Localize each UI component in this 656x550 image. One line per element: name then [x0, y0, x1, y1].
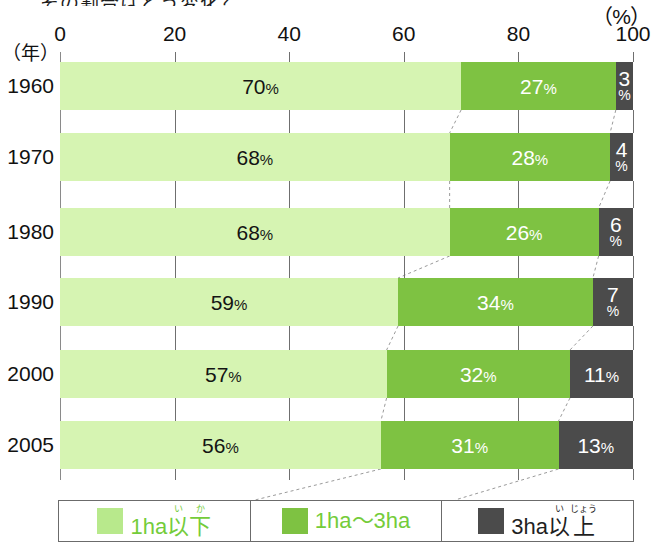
- segment-value-label: 68%: [236, 147, 273, 168]
- bar-segment-1990-1: 59%: [60, 278, 398, 326]
- bar-row: 56%31%13%: [60, 421, 633, 469]
- segment-value-label: 7%: [607, 285, 619, 318]
- grid-tick: [175, 110, 176, 133]
- grid-tick: [289, 110, 290, 133]
- year-label-1980: 1980: [0, 220, 54, 244]
- grid-tick: [175, 181, 176, 208]
- bar-segment-2005-3: 13%: [559, 421, 633, 469]
- legend-item-1ha-to-3ha[interactable]: 1ha〜3ha: [251, 501, 443, 541]
- segment-value-label: 3%: [618, 69, 630, 102]
- legend-swatch-1ha-or-less: [97, 508, 123, 534]
- bar-segment-1990-3: 7%: [593, 278, 633, 326]
- grid-tick: [289, 398, 290, 421]
- bar-segment-1960-1: 70%: [60, 62, 461, 110]
- grid-tick: [518, 110, 519, 133]
- grid-tick: [633, 398, 634, 421]
- bar-segment-1980-2: 26%: [450, 208, 599, 256]
- grid-tick: [518, 52, 519, 62]
- grid-tick: [404, 110, 405, 133]
- bar-segment-1980-3: 6%: [599, 208, 633, 256]
- grid-tick: [518, 469, 519, 480]
- segment-value-label: 26%: [506, 222, 543, 243]
- legend-label-1ha-to-3ha: 1ha〜3ha: [315, 510, 410, 532]
- bar-segment-1990-2: 34%: [398, 278, 593, 326]
- segment-value-label: 56%: [202, 435, 239, 456]
- segment-value-label: 4%: [615, 140, 627, 173]
- bar-segment-1980-1: 68%: [60, 208, 450, 256]
- grid-tick: [404, 181, 405, 208]
- grid-tick: [289, 256, 290, 278]
- segment-value-label: 32%: [460, 364, 497, 385]
- grid-tick: [175, 326, 176, 350]
- legend-item-1ha-or-less[interactable]: 1ha以い下か: [59, 501, 251, 541]
- grid-tick: [518, 256, 519, 278]
- bar-row: 68%26%6%: [60, 208, 633, 256]
- grid-tick: [518, 398, 519, 421]
- chart-legend: 1ha以い下か1ha〜3ha3ha以い上じょう: [58, 500, 634, 542]
- segment-value-label: 11%: [584, 364, 619, 385]
- grid-tick: [404, 256, 405, 278]
- bar-segment-1960-2: 27%: [461, 62, 616, 110]
- segment-value-label: 13%: [577, 435, 614, 456]
- bar-segment-2005-1: 56%: [60, 421, 381, 469]
- bar-segment-1970-3: 4%: [610, 133, 633, 181]
- segment-value-label: 6%: [610, 215, 622, 248]
- bar-row: 57%32%11%: [60, 350, 633, 398]
- grid-tick: [633, 52, 634, 62]
- legend-swatch-1ha-to-3ha: [282, 508, 308, 534]
- y-axis-unit-label: （年）: [2, 38, 59, 65]
- x-tick-80: 80: [507, 22, 530, 46]
- segment-value-label: 31%: [451, 435, 488, 456]
- grid-tick: [404, 398, 405, 421]
- segment-value-label: 68%: [236, 222, 273, 243]
- grid-tick: [633, 256, 634, 278]
- legend-label-1ha-or-less: 1ha以い下か: [130, 504, 211, 538]
- bar-segment-2000-1: 57%: [60, 350, 387, 398]
- bar-segment-2000-3: 11%: [570, 350, 633, 398]
- x-tick-20: 20: [163, 22, 186, 46]
- grid-tick: [518, 326, 519, 350]
- legend-label-3ha-or-more: 3ha以い上じょう: [511, 504, 597, 538]
- segment-value-label: 28%: [511, 147, 548, 168]
- x-tick-100: 100: [615, 22, 650, 46]
- year-label-1970: 1970: [0, 145, 54, 169]
- year-label-2005: 2005: [0, 433, 54, 457]
- legend-item-3ha-or-more[interactable]: 3ha以い上じょう: [442, 501, 633, 541]
- grid-tick: [633, 469, 634, 480]
- grid-tick: [289, 52, 290, 62]
- bar-row: 70%27%3%: [60, 62, 633, 110]
- grid-tick: [289, 181, 290, 208]
- segment-value-label: 57%: [205, 364, 242, 385]
- grid-tick: [175, 398, 176, 421]
- bar-segment-1970-1: 68%: [60, 133, 450, 181]
- segment-value-label: 34%: [477, 292, 514, 313]
- grid-tick: [404, 469, 405, 480]
- bar-segment-2000-2: 32%: [387, 350, 570, 398]
- bar-segment-1970-2: 28%: [450, 133, 610, 181]
- grid-tick: [289, 469, 290, 480]
- grid-tick: [289, 326, 290, 350]
- grid-tick: [518, 181, 519, 208]
- year-label-1990: 1990: [0, 290, 54, 314]
- grid-tick: [404, 52, 405, 62]
- year-label-2000: 2000: [0, 362, 54, 386]
- year-label-1960: 1960: [0, 74, 54, 98]
- bar-segment-2005-2: 31%: [381, 421, 559, 469]
- grid-tick: [404, 326, 405, 350]
- grid-tick: [175, 52, 176, 62]
- cropped-heading: その割合はどう変化？: [40, 0, 460, 6]
- legend-swatch-3ha-or-more: [478, 508, 504, 534]
- grid-tick: [175, 469, 176, 480]
- plot-area: 70%27%3%68%28%4%68%26%6%59%34%7%57%32%11…: [60, 52, 633, 480]
- grid-tick: [633, 110, 634, 133]
- grid-tick: [633, 326, 634, 350]
- x-tick-0: 0: [54, 22, 66, 46]
- bar-row: 68%28%4%: [60, 133, 633, 181]
- segment-value-label: 27%: [520, 76, 557, 97]
- grid-tick: [633, 181, 634, 208]
- segment-value-label: 70%: [242, 76, 279, 97]
- x-tick-40: 40: [278, 22, 301, 46]
- y-axis-line: [60, 52, 61, 480]
- stacked-bar-chart: その割合はどう変化？ （%） （年） 020406080100 19601970…: [0, 0, 656, 550]
- segment-value-label: 59%: [211, 292, 248, 313]
